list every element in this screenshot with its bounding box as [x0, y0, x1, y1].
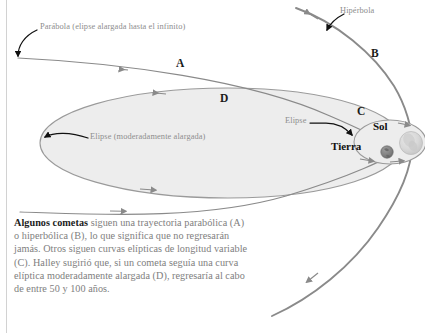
marker-d: D	[220, 92, 228, 105]
figure-caption: Algunos cometas siguen una trayectoria p…	[14, 216, 250, 295]
caption-lead: Algunos cometas	[14, 217, 88, 228]
marker-c: C	[357, 105, 365, 118]
marker-b: B	[371, 47, 379, 60]
annotation-ellipse-moderate: Elipse (moderadamente alargada)	[90, 132, 206, 141]
annotation-ellipse-short: Elipse	[285, 116, 307, 125]
label-sun: Sol	[373, 120, 388, 132]
sun-disc	[400, 131, 423, 154]
annotation-parabola: Parábola (elipse alargada hasta el infin…	[40, 22, 185, 31]
comet-trajectories-figure: Parábola (elipse alargada hasta el infin…	[0, 0, 425, 333]
earth-disc	[381, 146, 393, 158]
label-earth: Tierra	[331, 140, 361, 152]
caption-rest: siguen una trayectoria parabólica (A) o …	[14, 217, 247, 294]
annotation-hyperbola: Hipérbola	[340, 6, 374, 15]
marker-a: A	[176, 57, 184, 70]
